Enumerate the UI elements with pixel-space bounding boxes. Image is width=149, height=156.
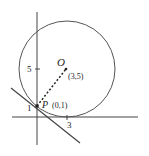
point-o — [65, 68, 68, 71]
point-p — [35, 104, 39, 108]
diagram-canvas: O (3,5) P (0,1) 5 1 3 — [0, 0, 149, 156]
label-p-coords: (0,1) — [52, 101, 68, 110]
label-x-3: 3 — [67, 120, 72, 130]
label-o-coords: (3,5) — [68, 72, 84, 81]
label-p: P — [41, 99, 48, 110]
label-y-5: 5 — [27, 64, 32, 74]
label-o: O — [57, 56, 65, 68]
label-y-1: 1 — [27, 103, 32, 113]
